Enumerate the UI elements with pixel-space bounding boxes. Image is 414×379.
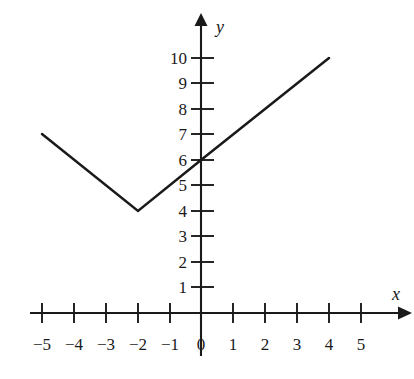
x-tick-label: −3 <box>97 335 115 354</box>
y-tick-label: 1 <box>179 278 188 297</box>
y-tick-label: 5 <box>179 176 188 195</box>
x-tick-label: 5 <box>357 335 366 354</box>
y-axis-ticks <box>191 58 214 287</box>
y-tick-label: 3 <box>179 227 188 246</box>
y-axis-arrow-icon <box>195 13 208 26</box>
x-tick-label: −2 <box>129 335 147 354</box>
coordinate-plane-svg: −5 −4 −3 −2 −1 0 1 2 3 4 5 1 2 3 4 5 6 7… <box>0 0 414 379</box>
x-tick-label: 4 <box>325 335 334 354</box>
y-tick-label: 10 <box>170 49 187 68</box>
x-tick-label: 1 <box>229 335 238 354</box>
x-axis-tick-labels: −5 −4 −3 −2 −1 0 1 2 3 4 5 <box>33 335 365 354</box>
graph-figure: −5 −4 −3 −2 −1 0 1 2 3 4 5 1 2 3 4 5 6 7… <box>0 0 414 379</box>
y-tick-label: 9 <box>179 74 188 93</box>
x-tick-label: 2 <box>261 335 270 354</box>
x-tick-label: −5 <box>33 335 51 354</box>
y-tick-label: 2 <box>179 253 188 272</box>
y-axis-label: y <box>214 17 224 37</box>
x-axis-arrow-icon <box>398 307 412 320</box>
x-tick-label: −1 <box>161 335 179 354</box>
x-tick-label: −4 <box>65 335 84 354</box>
x-tick-label: 3 <box>293 335 302 354</box>
y-tick-label: 7 <box>179 125 188 144</box>
x-axis-label: x <box>391 284 400 304</box>
x-tick-label: 0 <box>197 335 206 354</box>
y-tick-label: 6 <box>179 151 188 170</box>
y-tick-label: 4 <box>179 202 188 221</box>
y-tick-label: 8 <box>179 100 188 119</box>
